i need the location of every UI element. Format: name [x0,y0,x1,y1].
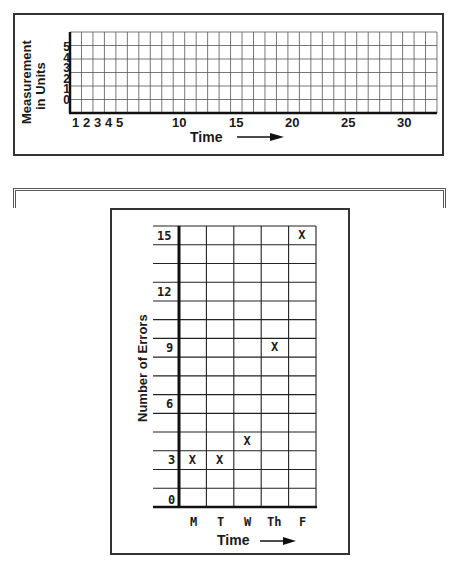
bottom-chart-plot [0,0,461,563]
x-tick-day: T [217,515,224,529]
x-marker: X [298,228,305,242]
y-tick: 0 [168,493,175,507]
x-marker: X [189,453,196,467]
y-tick: 12 [157,285,171,299]
x-tick-day: Th [267,515,281,529]
x-tick-day: F [299,515,306,529]
bottom-chart-xlabel: Time [217,532,249,548]
x-marker: X [216,453,223,467]
x-marker: X [244,434,251,448]
bottom-time-arrow-icon [283,537,296,545]
y-tick: 6 [166,397,173,411]
y-tick: 3 [168,453,175,467]
y-tick: 9 [166,341,173,355]
x-tick-day: M [190,515,197,529]
x-tick-day: W [244,515,251,529]
x-marker: X [271,340,278,354]
y-tick: 15 [157,229,171,243]
